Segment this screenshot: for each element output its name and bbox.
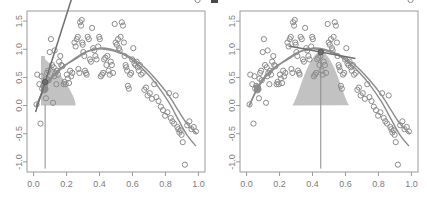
data-point [131, 46, 136, 51]
data-point [261, 37, 266, 42]
x-tick-label: 0.8 [159, 179, 172, 189]
crop-artifact-mark [211, 0, 218, 3]
data-point [182, 162, 187, 167]
data-point [333, 23, 338, 28]
x-tick-label: 0.6 [339, 179, 352, 189]
data-point-group [34, 0, 200, 167]
y-tick-label: -0.5 [14, 126, 24, 142]
data-point [58, 53, 63, 58]
data-point [325, 21, 330, 26]
data-point [263, 100, 268, 105]
scatter-panel-right: 0.00.20.40.60.81.0-1.0-0.50.00.51.01.5 [213, 0, 426, 199]
data-point [408, 0, 413, 3]
x-tick-label: 1.0 [405, 179, 418, 189]
x-tick-label: 0.2 [60, 179, 73, 189]
y-tick-label: 0.5 [227, 71, 237, 84]
x-tick-label: 0.0 [240, 179, 253, 189]
data-point [271, 53, 276, 58]
data-point [334, 40, 339, 45]
y-tick-label: -1.0 [14, 154, 24, 170]
data-point [307, 57, 312, 62]
data-point [94, 57, 99, 62]
data-point [195, 0, 200, 3]
x-tick-label: 1.0 [192, 179, 205, 189]
x-tick-label: 0.4 [93, 179, 106, 189]
data-point [303, 25, 308, 30]
data-point [90, 25, 95, 30]
fit-estimate-marker [318, 49, 324, 55]
x-tick-label: 0.4 [306, 179, 319, 189]
data-point [93, 53, 98, 58]
data-point [173, 93, 178, 98]
data-point [38, 121, 43, 126]
y-tick-label: 0.5 [14, 71, 24, 84]
data-point [332, 20, 337, 25]
data-point [48, 37, 53, 42]
y-tick-label: 0.0 [227, 99, 237, 112]
y-tick-label: 1.0 [14, 43, 24, 56]
y-tick-label: 1.5 [227, 15, 237, 28]
data-point [108, 59, 113, 64]
y-tick-label: -1.0 [227, 154, 237, 170]
y-tick-label: 1.5 [14, 15, 24, 28]
data-point [265, 48, 270, 53]
x-tick-label: 0.8 [372, 179, 385, 189]
data-point [121, 40, 126, 45]
data-point [393, 140, 398, 145]
data-point [386, 93, 391, 98]
data-point [395, 162, 400, 167]
scatter-panel-left: 0.00.20.40.60.81.0-1.0-0.50.00.51.01.5 [0, 0, 213, 199]
data-point [120, 23, 125, 28]
data-point [256, 96, 261, 101]
data-point [260, 49, 265, 54]
data-point [119, 20, 124, 25]
x-tick-label: 0.0 [27, 179, 40, 189]
data-point [109, 62, 114, 67]
data-point [47, 49, 52, 54]
data-point [180, 140, 185, 145]
x-tick-label: 0.2 [273, 179, 286, 189]
data-point [78, 23, 83, 28]
y-tick-label: 1.0 [227, 43, 237, 56]
data-point [291, 23, 296, 28]
figure-container: 0.00.20.40.60.81.0-1.0-0.50.00.51.01.5 0… [0, 0, 427, 199]
y-tick-label: -0.5 [227, 126, 237, 142]
data-point [267, 82, 272, 87]
fit-estimate-marker [42, 79, 48, 85]
data-point [344, 46, 349, 51]
data-point [251, 121, 256, 126]
x-tick-label: 0.6 [126, 179, 139, 189]
data-point [112, 21, 117, 26]
y-tick-label: 0.0 [14, 99, 24, 112]
data-point [306, 53, 311, 58]
